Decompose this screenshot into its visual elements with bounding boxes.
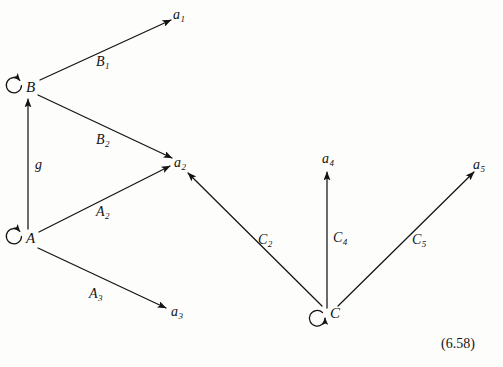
edge-B-a1 [40, 20, 171, 80]
self-loop-A [6, 229, 21, 244]
self-loop-B [6, 78, 21, 93]
node-label-C: C [330, 306, 340, 321]
self-loop-C [309, 310, 325, 326]
edge-label-A2: A2 [96, 205, 109, 219]
edge-C-a5 [338, 172, 474, 306]
equation-number: (6.58) [441, 336, 475, 352]
node-label-a2: a2 [174, 156, 186, 170]
edge-A-a2 [39, 166, 170, 232]
edge-label-g: g [35, 158, 42, 172]
edge-label-C4: C4 [333, 231, 347, 245]
node-label-a3: a3 [171, 305, 183, 319]
node-label-a4: a4 [322, 152, 334, 166]
node-label-B: B [26, 80, 35, 95]
edge-label-A3: A3 [89, 287, 102, 301]
node-label-A: A [26, 231, 35, 246]
node-label-a5: a5 [473, 158, 485, 172]
edge-label-B2: B2 [96, 133, 109, 147]
edge-label-C2: C2 [258, 233, 272, 247]
edge-label-B1: B1 [96, 55, 109, 69]
edge-C-a2 [188, 173, 322, 306]
node-label-a1: a1 [173, 8, 185, 22]
commutative-diagram-figure: B A C a1 a2 a3 a4 a5 B1 B2 g A2 A3 C2 C4 [0, 0, 503, 367]
edge-label-C5: C5 [412, 233, 426, 247]
diagram-canvas [0, 0, 503, 367]
